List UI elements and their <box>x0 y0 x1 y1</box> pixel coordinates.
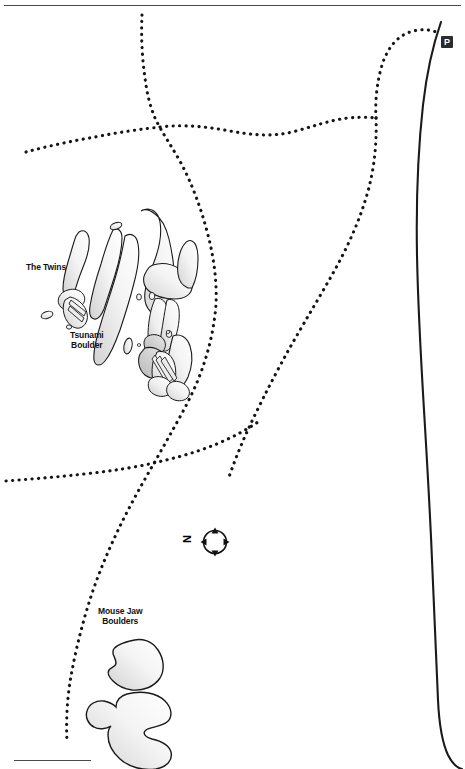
label-tsunami-boulder: Tsunami Boulder <box>70 330 104 350</box>
trail-east-ridge <box>160 117 376 135</box>
label-mouse-jaw-line1: Mouse Jaw <box>98 606 142 616</box>
map-canvas: Map area <box>0 0 465 769</box>
parking-marker[interactable]: P <box>441 36 453 48</box>
parking-marker-label: P <box>444 38 450 47</box>
road-access-road <box>417 22 462 769</box>
compass-north-letter: N <box>181 535 193 543</box>
boulder-group-mouse-jaw <box>86 639 171 769</box>
bottom-divider-rule <box>14 760 91 761</box>
label-mouse-jaw-boulders: Mouse Jaw Boulders <box>98 606 142 626</box>
trail-junction-west-spur <box>26 127 160 152</box>
label-tsunami-boulder-line1: Tsunami <box>70 330 104 340</box>
map-vector-layer <box>0 0 465 769</box>
compass-rose: N <box>183 522 227 562</box>
trail-west-horizontal <box>6 422 258 481</box>
label-mouse-jaw-line2: Boulders <box>98 616 142 626</box>
label-the-twins: The Twins <box>26 262 66 272</box>
label-tsunami-boulder-line2: Boulder <box>70 340 104 350</box>
trail-main-north <box>67 15 217 742</box>
